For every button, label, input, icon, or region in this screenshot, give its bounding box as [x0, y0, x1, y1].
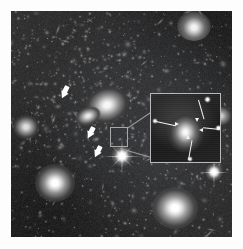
magnified-inset — [150, 93, 221, 163]
astronomy-figure — [0, 0, 243, 249]
image-plate — [11, 11, 232, 237]
source-region-box — [110, 127, 128, 147]
